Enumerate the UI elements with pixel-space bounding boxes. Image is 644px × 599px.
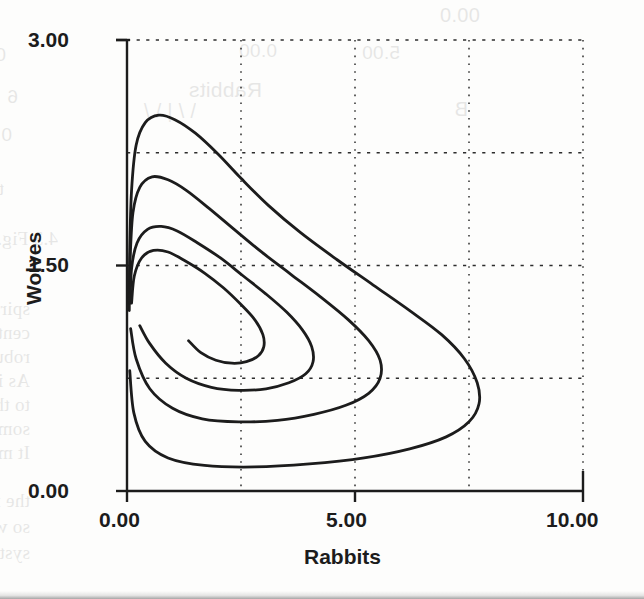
x-tick-label-10-00: 10.00 [546,508,599,532]
page-bottom-edge [0,591,644,599]
x-axis-title: Rabbits [304,545,381,569]
y-axis-title: Wolves [22,232,46,305]
x-tick-label-0-00: 0.00 [99,508,140,532]
chart-axis-ticks [116,40,583,502]
x-tick-label-5-00: 5.00 [326,508,367,532]
chart-orbit-curves [129,115,479,467]
y-tick-label-0-00: 0.00 [28,479,69,503]
scanned-page: 0.000.000.005.00Rabbits6B\ / | \ /0.0the… [0,0,644,599]
y-tick-label-3-00: 3.00 [28,28,69,52]
orbit-curve [129,176,381,421]
